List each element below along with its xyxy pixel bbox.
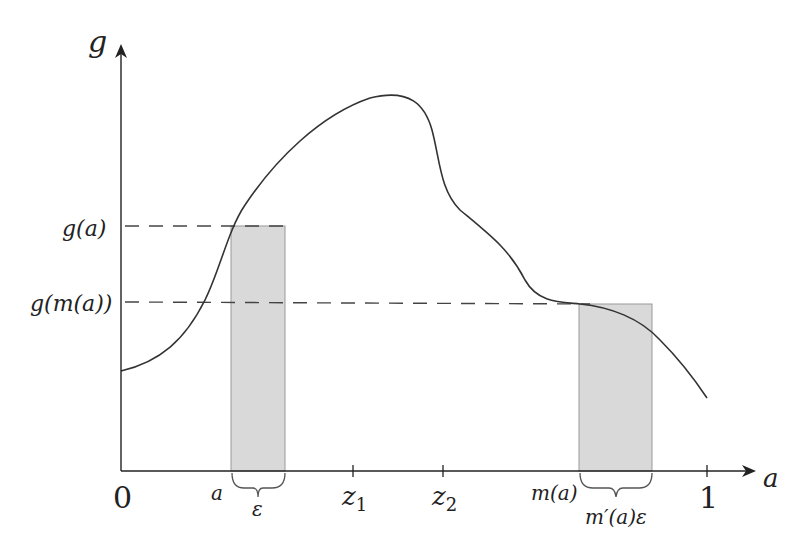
a-marker-label: a [211, 481, 223, 505]
epsilon-label: ε [252, 497, 263, 521]
epsilon-interval-rect [231, 226, 285, 471]
m-prime-brace [580, 473, 652, 497]
z2-label: z2 [431, 481, 457, 515]
g-a-label: g(a) [62, 216, 106, 241]
x-end-label: 1 [699, 480, 718, 515]
epsilon-brace [232, 473, 285, 497]
m-a-marker-label: m(a) [531, 481, 578, 505]
y-axis-label: g [88, 24, 107, 59]
g-m-a-label: g(m(a)) [30, 291, 112, 316]
g-m-a-dashed-line [125, 302, 590, 304]
x-axis-label: a [763, 463, 779, 493]
diagram-canvas: g a 0 1 g(a) g(m(a)) a z1 z2 m(a) ε m′(a… [0, 0, 793, 553]
origin-label: 0 [113, 480, 132, 515]
m-prime-epsilon-label: m′(a)ε [585, 505, 647, 529]
m-interval-rect [579, 304, 652, 471]
z1-label: z1 [341, 481, 367, 515]
